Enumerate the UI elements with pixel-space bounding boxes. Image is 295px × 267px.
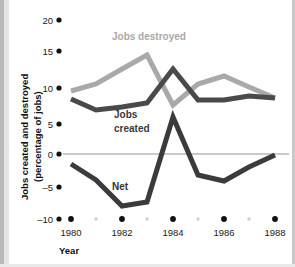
ytick-dot-0: [56, 151, 61, 156]
xtick-dot-1985: [196, 217, 199, 220]
xtick-label-1982: 1982: [111, 227, 132, 238]
xtick-label-1980: 1980: [60, 227, 81, 238]
xtick-label-1984: 1984: [162, 227, 183, 238]
xtick-dot-1984: [170, 216, 176, 222]
series-label-jobs-created-line2: created: [114, 123, 150, 134]
x-axis-title: Year: [59, 245, 79, 256]
ytick-label-0: 0: [48, 149, 53, 160]
series-label-jobs-created-line1: Jobs: [114, 109, 138, 120]
y-axis-title-line1: Jobs created and destroyed: [19, 74, 30, 200]
line-chart: 20 15 10 5 0 –5 –10 1980 1982 1984 1986 …: [0, 0, 295, 267]
ytick-label-5: 5: [48, 119, 53, 130]
ytick-dot-20: [56, 17, 61, 22]
series-label-jobs-destroyed: Jobs destroyed: [112, 31, 186, 42]
ytick-label-minus10: –10: [37, 214, 53, 225]
xtick-dot-1980: [68, 216, 74, 222]
xtick-dot-1987: [247, 217, 250, 220]
ytick-label-15: 15: [42, 46, 53, 57]
series-label-net: Net: [112, 181, 129, 192]
series-line-net: [71, 117, 275, 206]
ytick-dot-10: [56, 85, 61, 90]
y-axis-title-line2: (percentage of jobs): [32, 91, 43, 182]
xtick-dot-1983: [145, 217, 148, 220]
xtick-dot-1986: [221, 216, 227, 222]
xtick-label-1986: 1986: [213, 227, 234, 238]
ytick-dot-15: [56, 48, 61, 53]
ytick-dot-m10: [56, 216, 61, 221]
xtick-dot-1988: [272, 216, 278, 222]
ytick-dot-5: [56, 121, 61, 126]
xtick-dot-1982: [119, 216, 125, 222]
xtick-dot-1981: [94, 217, 97, 220]
xtick-label-1988: 1988: [264, 227, 285, 238]
ytick-label-20: 20: [42, 15, 53, 26]
ytick-label-minus5: –5: [42, 182, 53, 193]
ytick-label-10: 10: [42, 83, 53, 94]
ytick-dot-m5: [56, 184, 61, 189]
chart-page: 20 15 10 5 0 –5 –10 1980 1982 1984 1986 …: [0, 0, 295, 267]
